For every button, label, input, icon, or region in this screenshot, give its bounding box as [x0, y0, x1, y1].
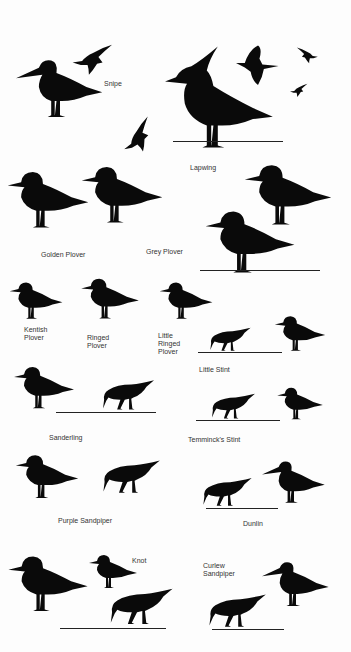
label-snipe: Snipe — [104, 80, 122, 88]
ground-line — [200, 270, 320, 271]
dunlin-feeding-silhouette — [199, 476, 255, 512]
little-ringed-plover-silhouette — [155, 278, 217, 322]
temmincks-stint-standing-silhouette — [272, 384, 328, 422]
ground-line — [212, 629, 284, 630]
lapwing-flying-small-silhouette — [296, 46, 318, 64]
purple-sandpiper-feeding-silhouette — [100, 458, 162, 500]
purple-sandpiper-standing-silhouette — [12, 450, 82, 502]
label-little-stint: Little Stint — [199, 366, 230, 374]
curlew-sandpiper-standing-silhouette — [262, 554, 330, 612]
ground-line — [56, 412, 156, 413]
knot-standing-silhouette — [6, 550, 90, 616]
golden-plover-silhouette-2 — [80, 148, 164, 240]
ground-line — [173, 141, 283, 142]
lapwing-flying-small-silhouette-2 — [290, 82, 308, 98]
sanderling-standing-silhouette — [10, 362, 78, 412]
knot-feeding-silhouette — [100, 586, 182, 632]
label-lapwing: Lapwing — [190, 164, 216, 172]
sanderling-feeding-silhouette — [96, 378, 160, 416]
dunlin-standing-silhouette — [262, 454, 326, 508]
label-sanderling: Sanderling — [49, 434, 82, 442]
ground-line — [198, 352, 282, 353]
kentish-plover-silhouette — [6, 278, 66, 322]
label-purple-sandpiper: Purple Sandpiper — [58, 517, 112, 525]
label-grey-plover: Grey Plover — [146, 248, 183, 256]
label-curlew-sandpiper: Curlew Sandpiper — [203, 562, 235, 578]
label-kentish-plover: Kentish Plover — [24, 326, 47, 342]
little-stint-standing-silhouette — [272, 312, 328, 354]
wader-identification-plate: Snipe Lapwing Golden Plover Grey Plover … — [0, 0, 351, 652]
label-ringed-plover: Ringed Plover — [87, 334, 109, 350]
label-dunlin: Dunlin — [243, 520, 263, 528]
lapwing-flying-silhouette — [236, 40, 280, 92]
ground-line — [60, 628, 166, 629]
label-temmincks-stint: Temminck's Stint — [188, 436, 240, 444]
golden-plover-silhouette — [6, 158, 90, 240]
ground-line — [206, 508, 278, 509]
ground-line — [196, 420, 280, 421]
ringed-plover-silhouette — [76, 274, 144, 322]
grey-plover-walking-silhouette — [198, 204, 302, 278]
label-knot: Knot — [132, 557, 146, 565]
label-golden-plover: Golden Plover — [41, 251, 85, 259]
label-little-ringed-plover: Little Ringed Plover — [158, 332, 180, 356]
snipe-flying-silhouette — [72, 42, 114, 76]
